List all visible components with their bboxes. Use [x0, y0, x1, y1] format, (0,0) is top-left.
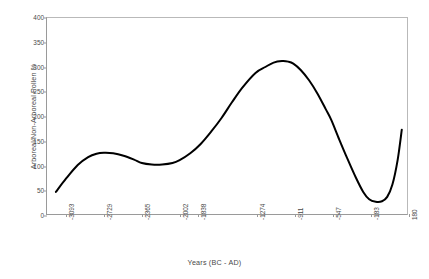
x-tick-mark	[371, 214, 372, 217]
y-tick-label: 300	[33, 64, 44, 70]
y-tick-mark	[44, 42, 47, 43]
x-tick-label: -183	[374, 207, 380, 220]
y-tick-mark	[44, 166, 47, 167]
y-tick-mark	[44, 117, 47, 118]
x-tick-mark	[257, 214, 258, 217]
series-line-arboreal-pollen	[56, 61, 402, 202]
x-tick-label: -2365	[145, 204, 151, 220]
y-tick-label: 200	[33, 114, 44, 120]
y-tick-label: 50	[37, 188, 44, 194]
pollen-line-chart: Arboreal/Non-Arboreal Pollen % 050100150…	[0, 0, 429, 279]
y-tick-label: 400	[33, 15, 44, 21]
series-line-layer	[47, 18, 407, 214]
x-tick-mark	[66, 214, 67, 217]
x-tick-label: -1838	[201, 204, 207, 220]
x-tick-mark	[295, 214, 296, 217]
x-tick-label: 180	[412, 209, 418, 220]
x-tick-mark	[409, 214, 410, 217]
x-tick-label: -1274	[260, 204, 266, 220]
x-axis-title: Years (BC - AD)	[0, 258, 429, 267]
y-tick-mark	[44, 18, 47, 19]
y-tick-mark	[44, 67, 47, 68]
y-tick-label: 150	[33, 139, 44, 145]
x-tick-label: -3093	[69, 204, 75, 220]
x-tick-label: -2729	[107, 204, 113, 220]
y-tick-label: 0	[40, 213, 44, 219]
y-tick-label: 250	[33, 89, 44, 95]
x-tick-mark	[333, 214, 334, 217]
y-tick-mark	[44, 216, 47, 217]
x-tick-label: -2002	[183, 204, 189, 220]
y-tick-mark	[44, 191, 47, 192]
x-tick-mark	[198, 214, 199, 217]
y-tick-mark	[44, 92, 47, 93]
y-tick-label: 350	[33, 40, 44, 46]
plot-area: 050100150200250300350400-3093-2729-2365-…	[46, 17, 408, 215]
x-tick-label: -547	[336, 207, 342, 220]
y-tick-mark	[44, 141, 47, 142]
y-tick-label: 100	[33, 163, 44, 169]
x-tick-label: -911	[298, 208, 304, 220]
